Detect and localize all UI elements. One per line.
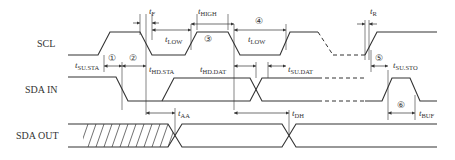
marker-4: ④ (255, 16, 263, 26)
signal-label-sda-in: SDA IN (25, 84, 58, 95)
label-t-high: tHIGH (198, 6, 217, 17)
label-t-su-sto: tSU.STO (393, 60, 418, 71)
marker-3: ③ (204, 34, 212, 44)
label-t-low-1: tLOW (165, 34, 183, 45)
label-t-hd-sta: tHD.STA (149, 64, 175, 75)
marker-5: ⑤ (375, 53, 383, 63)
i2c-timing-diagram: SCL SDA IN SDA OUT (0, 0, 455, 160)
label-t-low-2: tLOW (248, 34, 266, 45)
marker-1: ① (108, 53, 116, 63)
label-t-dh: tDH (292, 108, 304, 119)
signal-label-scl: SCL (37, 38, 55, 49)
marker-6: ⑥ (397, 100, 405, 110)
label-t-r: tR (370, 6, 378, 17)
signal-label-sda-out: SDA OUT (16, 130, 59, 141)
label-t-hd-dat: tHD.DAT (200, 64, 226, 75)
sda-out-waveform (68, 124, 437, 147)
label-t-su-dat: tSU.DAT (288, 64, 313, 75)
label-t-aa: tAA (178, 108, 190, 119)
hatched-undefined-region (80, 124, 176, 147)
label-t-su-sta: tSU.STA (75, 60, 100, 71)
label-t-buf: tBUF (419, 108, 435, 119)
marker-2: ② (129, 53, 137, 63)
label-t-f: tF (149, 6, 156, 17)
sda-in-waveform (68, 77, 437, 101)
